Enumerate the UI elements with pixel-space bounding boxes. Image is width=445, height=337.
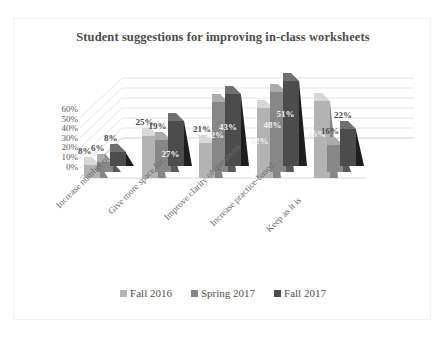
cropped-text-artifact (0, 0, 445, 12)
bar-value-label: 43% (219, 122, 237, 132)
legend-item-spring-2017[interactable]: Spring 2017 (191, 287, 255, 299)
bar-value-label: 6% (91, 143, 105, 153)
legend-swatch-icon-fall-2016 (120, 290, 127, 297)
bar-2-3[interactable] (283, 81, 299, 166)
bar-value-label: 19% (149, 121, 167, 131)
bar-value-label: 22% (334, 110, 352, 120)
category-label-4: Keep as it is (264, 195, 303, 234)
chart-container: Student suggestions for improving in-cla… (13, 18, 431, 320)
bar-value-label: 8% (78, 146, 92, 156)
plot-area: 60%50%40%30%20%10%0% 8%25%21%42%46%6%19%… (14, 55, 432, 200)
bar-top (340, 121, 356, 129)
bar-side (241, 87, 249, 166)
chart-legend: Fall 2016 Spring 2017 Fall 2017 (14, 287, 432, 299)
bar-top (314, 93, 330, 101)
bar-front (283, 81, 299, 166)
bar-value-label: 51% (277, 109, 295, 119)
bar-value-label: 42% (251, 136, 269, 146)
bar-2-4[interactable] (340, 129, 356, 166)
chart-title: Student suggestions for improving in-cla… (14, 30, 432, 45)
legend-item-fall-2017[interactable]: Fall 2017 (274, 287, 326, 299)
legend-label-fall-2016: Fall 2016 (130, 287, 172, 299)
bar-top (283, 73, 299, 81)
bar-side (184, 113, 192, 166)
bars-layer: 8%25%21%42%46%6%19%42%48%16%8%27%43%51%2… (14, 55, 432, 200)
bar-value-label: 8% (104, 133, 118, 143)
bar-top (168, 113, 184, 121)
bar-side (299, 73, 307, 166)
legend-swatch-icon-fall-2017 (274, 290, 281, 297)
legend-label-fall-2017: Fall 2017 (284, 287, 326, 299)
bar-value-label: 48% (264, 120, 282, 130)
bar-side (126, 145, 134, 166)
legend-swatch-icon-spring-2017 (191, 290, 198, 297)
legend-item-fall-2016[interactable]: Fall 2016 (120, 287, 172, 299)
bar-value-label: 16% (321, 126, 339, 136)
bar-front (340, 129, 356, 166)
bar-top (225, 86, 241, 94)
legend-label-spring-2017: Spring 2017 (201, 287, 255, 299)
bar-side (356, 122, 364, 166)
